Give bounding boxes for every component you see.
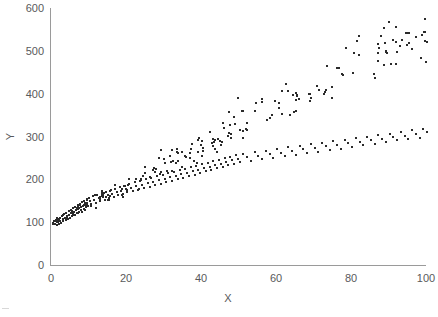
- data-point: [347, 142, 349, 144]
- data-point: [101, 195, 103, 197]
- data-point: [386, 52, 388, 54]
- data-point: [352, 72, 354, 74]
- data-point: [223, 127, 225, 129]
- data-point: [158, 179, 160, 181]
- data-point: [181, 151, 183, 153]
- x-axis-line: [50, 265, 426, 266]
- data-point: [377, 60, 379, 62]
- data-point: [237, 158, 239, 160]
- data-point: [147, 182, 149, 184]
- data-point: [388, 21, 390, 23]
- data-point: [340, 148, 342, 150]
- data-point: [421, 34, 423, 36]
- data-point: [109, 195, 111, 197]
- data-point: [84, 209, 86, 211]
- data-point: [193, 160, 195, 162]
- data-point: [182, 177, 184, 179]
- data-point: [299, 145, 301, 147]
- data-point: [126, 189, 128, 191]
- data-point: [202, 147, 204, 149]
- data-point: [105, 191, 107, 193]
- data-point: [227, 135, 229, 137]
- scan-artifact: [2, 308, 9, 309]
- data-point: [176, 148, 178, 150]
- data-point: [81, 211, 83, 213]
- data-point: [401, 39, 403, 41]
- data-point: [169, 155, 171, 157]
- y-axis-title: Y: [5, 125, 16, 149]
- data-point: [296, 94, 298, 96]
- data-point: [400, 131, 402, 133]
- data-point: [203, 167, 205, 169]
- data-point: [377, 52, 379, 54]
- data-point: [261, 98, 263, 100]
- data-point: [111, 193, 113, 195]
- data-point: [79, 204, 81, 206]
- data-point: [356, 40, 358, 42]
- x-axis-title: X: [188, 293, 268, 304]
- data-point: [408, 42, 410, 44]
- data-point: [233, 116, 235, 118]
- data-point: [424, 31, 426, 33]
- data-point: [135, 185, 137, 187]
- data-point: [93, 199, 95, 201]
- data-point: [167, 172, 169, 174]
- data-point: [134, 181, 136, 183]
- data-point: [295, 154, 297, 156]
- data-point: [169, 176, 171, 178]
- data-point: [426, 41, 428, 43]
- data-point: [246, 129, 248, 131]
- data-point: [355, 137, 357, 139]
- data-point: [374, 143, 376, 145]
- data-point: [214, 148, 216, 150]
- data-point: [164, 178, 166, 180]
- x-tick-label: 80: [345, 273, 357, 284]
- data-point: [184, 168, 186, 170]
- data-point: [341, 73, 343, 75]
- data-point: [177, 160, 179, 162]
- data-point: [202, 150, 204, 152]
- data-point: [185, 156, 187, 158]
- data-point: [121, 188, 123, 190]
- data-point: [150, 177, 152, 179]
- data-point: [314, 147, 316, 149]
- data-point: [295, 99, 297, 101]
- data-point: [242, 130, 244, 132]
- data-point: [205, 170, 207, 172]
- data-point: [230, 137, 232, 139]
- data-point: [281, 90, 283, 92]
- data-point: [135, 178, 137, 180]
- data-point: [370, 139, 372, 141]
- data-point: [383, 64, 385, 66]
- data-point: [149, 176, 151, 178]
- data-point: [84, 202, 86, 204]
- data-point: [281, 113, 283, 115]
- data-point: [324, 91, 326, 93]
- data-point: [181, 166, 183, 168]
- data-point: [406, 44, 408, 46]
- data-point: [216, 167, 218, 169]
- data-point: [359, 141, 361, 143]
- data-point: [287, 146, 289, 148]
- data-point: [278, 102, 280, 104]
- data-point: [114, 184, 116, 186]
- data-point: [411, 48, 413, 50]
- data-point: [171, 149, 173, 151]
- data-point: [101, 190, 103, 192]
- data-point: [377, 43, 379, 45]
- data-point: [269, 153, 271, 155]
- data-point: [366, 136, 368, 138]
- data-point: [73, 214, 75, 216]
- data-point: [222, 166, 224, 168]
- data-point: [171, 170, 173, 172]
- data-point: [278, 107, 280, 109]
- data-point: [425, 61, 427, 63]
- data-point: [197, 151, 199, 153]
- data-point: [217, 138, 219, 140]
- data-point: [241, 110, 243, 112]
- data-point: [269, 117, 271, 119]
- data-point: [220, 144, 222, 146]
- data-point: [411, 129, 413, 131]
- data-point: [396, 51, 398, 53]
- data-point: [138, 188, 140, 190]
